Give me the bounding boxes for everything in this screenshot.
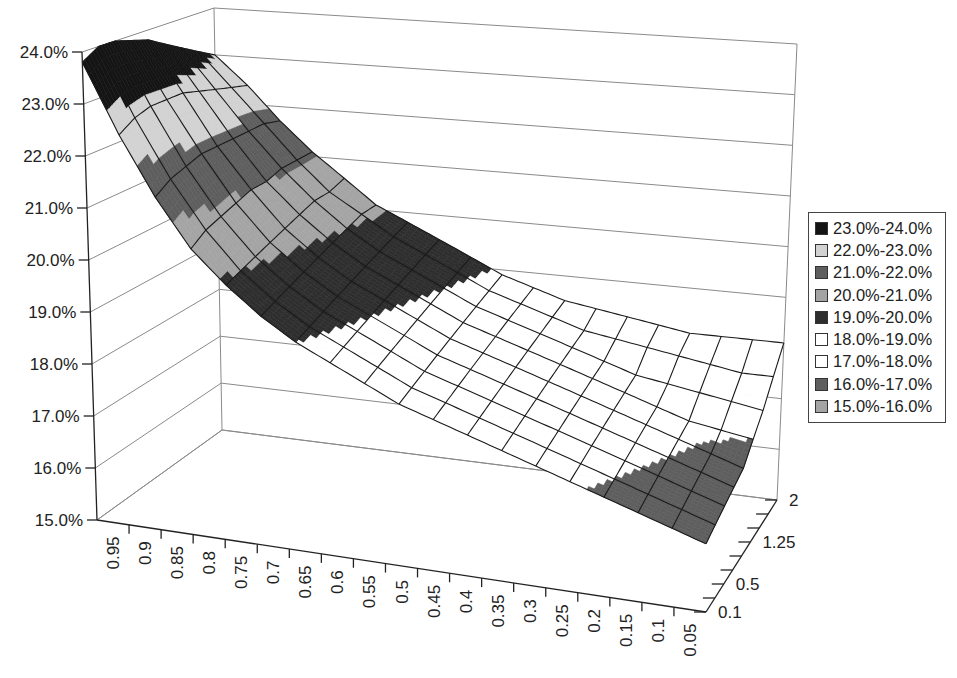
legend-swatch [815,378,828,391]
value-tick-label: 23.0% [21,95,69,114]
legend-swatch [815,289,828,302]
legend-item: 21.0%-22.0% [815,262,945,284]
category-tick-label: 0.9 [136,541,155,565]
category-tick-label: 0.95 [104,536,123,569]
category-tick-label: 0.75 [232,556,251,589]
value-tick-label: 21.0% [25,199,73,218]
category-tick-label: 0.1 [649,619,668,643]
category-tick-label: 0.35 [489,595,508,628]
value-tick-label: 20.0% [26,251,74,270]
category-tick-label: 0.45 [425,585,444,618]
category-tick-label: 0.8 [200,551,219,575]
value-tick-label: 16.0% [33,459,81,478]
legend-item: 23.0%-24.0% [815,217,945,239]
category-tick-label: 0.3 [521,599,540,623]
depth-tick-label: 0.5 [736,575,760,594]
legend-item: 22.0%-23.0% [815,239,945,261]
legend-swatch [815,355,828,368]
legend-label: 23.0%-24.0% [833,219,932,238]
legend-item: 16.0%-17.0% [815,373,945,395]
category-tick-label: 0.85 [168,546,187,579]
value-axis-line [82,52,97,520]
surface-fills [82,40,784,544]
value-tick-label: 18.0% [30,355,78,374]
category-tick-label: 0.4 [457,590,476,614]
legend-label: 21.0%-22.0% [833,263,932,282]
value-tick-label: 15.0% [35,511,83,530]
legend-swatch [815,311,828,324]
legend-label: 20.0%-21.0% [833,286,932,305]
legend-label: 18.0%-19.0% [833,330,932,349]
depth-tick-label: 0.1 [718,603,742,622]
legend-item: 20.0%-21.0% [815,284,945,306]
legend-label: 17.0%-18.0% [833,352,932,371]
value-tick-label: 19.0% [28,303,76,322]
category-tick-label: 0.05 [681,624,700,657]
legend-swatch [815,400,828,413]
depth-tick-label: 2 [789,491,798,510]
legend-item: 15.0%-16.0% [815,395,945,417]
legend-item: 19.0%-20.0% [815,306,945,328]
gridline [82,8,797,52]
value-tick-label: 24.0% [20,43,68,62]
category-axis-labels: 0.950.90.850.80.750.70.650.60.550.50.450… [104,536,700,656]
legend-label: 16.0%-17.0% [833,375,932,394]
legend-label: 22.0%-23.0% [833,241,932,260]
category-tick-label: 0.2 [585,609,604,633]
value-axis-labels: 15.0%16.0%17.0%18.0%19.0%20.0%21.0%22.0%… [20,43,83,530]
category-tick-label: 0.55 [360,575,379,608]
value-tick-label: 22.0% [23,147,71,166]
legend-swatch [815,222,828,235]
surface-plot [82,40,784,544]
legend-label: 15.0%-16.0% [833,397,932,416]
legend-swatch [815,266,828,279]
wall-edge [777,44,797,500]
category-tick-label: 0.65 [296,565,315,598]
legend-item: 17.0%-18.0% [815,351,945,373]
value-tick-label: 17.0% [31,407,79,426]
depth-tick-label: 1.25 [762,533,795,552]
category-tick-label: 0.15 [617,614,636,647]
legend-swatch [815,333,828,346]
category-tick-label: 0.5 [393,580,412,604]
category-tick-label: 0.7 [264,561,283,585]
category-tick-label: 0.6 [328,570,347,594]
category-tick-label: 0.25 [553,604,572,637]
legend-swatch [815,244,828,257]
legend-label: 19.0%-20.0% [833,308,932,327]
chart-legend: 23.0%-24.0% 22.0%-23.0% 21.0%-22.0% 20.0… [808,212,946,423]
legend-item: 18.0%-19.0% [815,328,945,350]
